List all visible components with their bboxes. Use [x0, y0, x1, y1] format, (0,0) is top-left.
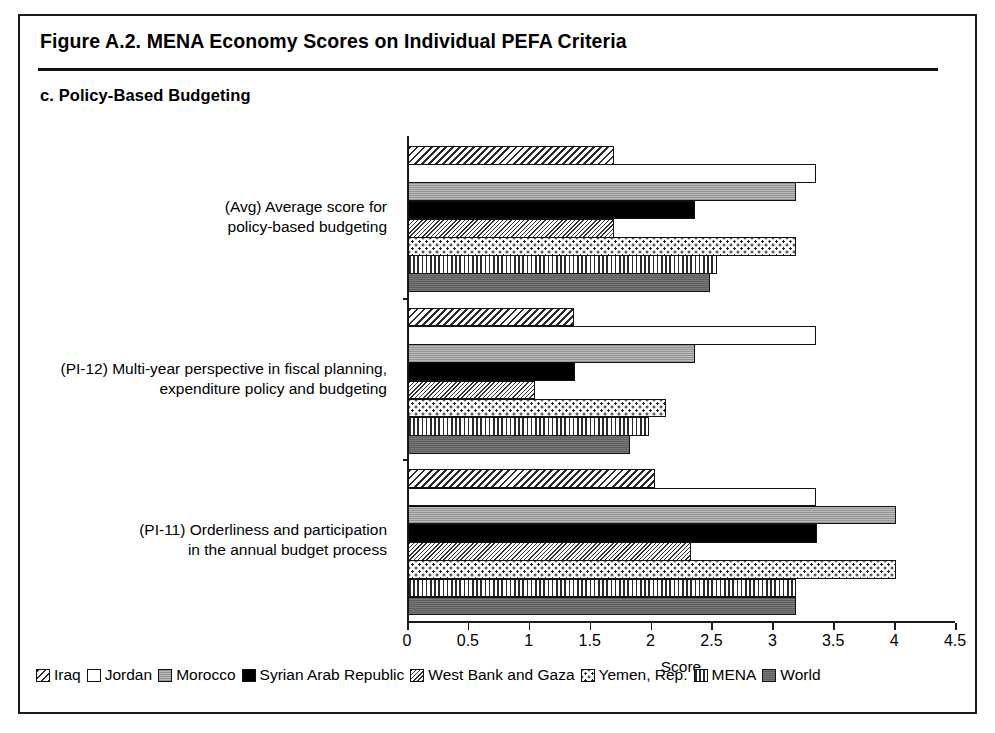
group-separator-1 [403, 298, 409, 300]
legend-item-syrian-arab-republic[interactable]: Syrian Arab Republic [242, 666, 405, 684]
x-tick-5 [711, 623, 713, 630]
bar-iraq-group-1 [408, 308, 574, 327]
bar-iraq-group-2 [408, 146, 614, 165]
bar-world-group-1 [408, 435, 630, 454]
legend-swatch-icon [581, 669, 595, 682]
bar-jordan-group-0 [408, 488, 816, 507]
legend-label: Yemen, Rep. [599, 666, 688, 684]
x-tick-label-1: 0.5 [446, 632, 490, 650]
legend-label: World [780, 666, 820, 684]
x-tick-6 [772, 623, 774, 630]
category-label-1-line-0: (PI-12) Multi-year perspective in fiscal… [30, 359, 387, 379]
category-label-1: (PI-12) Multi-year perspective in fiscal… [30, 359, 387, 399]
category-label-1-line-1: expenditure policy and budgeting [30, 379, 387, 399]
category-label-0: (PI-11) Orderliness and participationin … [30, 520, 387, 560]
x-tick-3 [590, 623, 592, 630]
bar-jordan-group-2 [408, 164, 816, 183]
x-tick-9 [955, 623, 957, 630]
x-tick-label-2: 1 [507, 632, 551, 650]
bar-iraq-group-0 [408, 469, 655, 488]
title-divider [38, 68, 938, 71]
category-label-0-line-0: (PI-11) Orderliness and participation [30, 520, 387, 540]
x-tick-1 [468, 623, 470, 630]
legend-item-west-bank-and-gaza[interactable]: West Bank and Gaza [410, 666, 574, 684]
figure-page: Figure A.2. MENA Economy Scores on Indiv… [0, 0, 995, 733]
legend-label: West Bank and Gaza [428, 666, 574, 684]
x-axis-line [407, 621, 955, 623]
panel-title: c. Policy-Based Budgeting [40, 86, 251, 105]
bar-mena-group-1 [408, 417, 649, 436]
category-label-2-line-0: (Avg) Average score for [30, 197, 387, 217]
bar-world-group-0 [408, 597, 796, 616]
x-tick-label-7: 3.5 [811, 632, 855, 650]
bar-jordan-group-1 [408, 326, 816, 345]
bar-west-bank-and-gaza-group-2 [408, 219, 614, 238]
legend-item-morocco[interactable]: Morocco [158, 666, 235, 684]
legend-swatch-icon [36, 669, 50, 682]
legend-swatch-icon [87, 669, 101, 682]
x-tick-0 [407, 623, 409, 630]
legend-label: MENA [712, 666, 757, 684]
bar-yemen-rep-group-0 [408, 560, 896, 579]
bar-morocco-group-0 [408, 506, 896, 525]
bar-morocco-group-1 [408, 344, 695, 363]
x-tick-7 [833, 623, 835, 630]
legend-item-yemen-rep[interactable]: Yemen, Rep. [581, 666, 688, 684]
legend-label: Iraq [54, 666, 81, 684]
legend-swatch-icon [242, 669, 256, 682]
group-separator-0 [403, 459, 409, 461]
legend-swatch-icon [762, 669, 776, 682]
chart-legend: IraqJordanMoroccoSyrian Arab RepublicWes… [36, 666, 961, 684]
legend-label: Syrian Arab Republic [260, 666, 405, 684]
x-tick-label-9: 4.5 [933, 632, 977, 650]
legend-swatch-icon [694, 669, 708, 682]
bar-yemen-rep-group-1 [408, 399, 666, 418]
x-tick-label-4: 2 [629, 632, 673, 650]
bar-mena-group-2 [408, 255, 717, 274]
x-tick-label-0: 0 [385, 632, 429, 650]
category-label-2-line-1: policy-based budgeting [30, 217, 387, 237]
x-tick-4 [651, 623, 653, 630]
legend-label: Morocco [176, 666, 235, 684]
bar-syrian-arab-republic-group-1 [408, 362, 575, 381]
legend-swatch-icon [410, 669, 424, 682]
bar-syrian-arab-republic-group-2 [408, 201, 695, 220]
x-tick-label-6: 3 [750, 632, 794, 650]
bar-mena-group-0 [408, 579, 796, 598]
figure-frame: Figure A.2. MENA Economy Scores on Indiv… [18, 14, 977, 714]
bar-syrian-arab-republic-group-0 [408, 524, 817, 543]
bar-chart-plot-area: 00.511.522.533.544.5 Score [407, 136, 955, 621]
figure-title: Figure A.2. MENA Economy Scores on Indiv… [40, 30, 627, 53]
legend-label: Jordan [105, 666, 152, 684]
category-label-2: (Avg) Average score forpolicy-based budg… [30, 197, 387, 237]
legend-item-jordan[interactable]: Jordan [87, 666, 152, 684]
category-label-0-line-1: in the annual budget process [30, 540, 387, 560]
bar-west-bank-and-gaza-group-0 [408, 542, 691, 561]
bar-world-group-2 [408, 273, 710, 292]
x-tick-label-3: 1.5 [568, 632, 612, 650]
legend-item-mena[interactable]: MENA [694, 666, 757, 684]
x-tick-label-5: 2.5 [689, 632, 733, 650]
bar-west-bank-and-gaza-group-1 [408, 381, 535, 400]
legend-item-world[interactable]: World [762, 666, 820, 684]
x-tick-2 [529, 623, 531, 630]
legend-swatch-icon [158, 669, 172, 682]
x-tick-label-8: 4 [872, 632, 916, 650]
bar-yemen-rep-group-2 [408, 237, 796, 256]
x-tick-8 [894, 623, 896, 630]
bar-morocco-group-2 [408, 182, 796, 201]
legend-item-iraq[interactable]: Iraq [36, 666, 81, 684]
